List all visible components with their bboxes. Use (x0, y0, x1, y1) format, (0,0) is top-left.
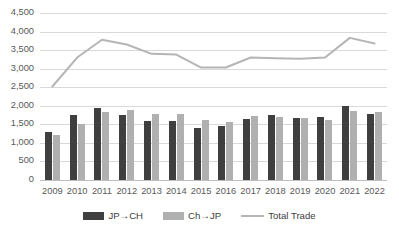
x-axis-baseline (40, 180, 387, 181)
x-axis-tick-label: 2010 (65, 183, 90, 199)
y-axis-tick-label: 500 (18, 157, 34, 166)
y-axis-tick-label: 1,000 (11, 138, 34, 147)
y-axis-tick-label: 0 (29, 175, 34, 184)
legend-item[interactable]: JP→CH (83, 211, 143, 221)
x-axis-tick-label: 2022 (362, 183, 387, 199)
x-axis-tick-label: 2018 (263, 183, 288, 199)
x-axis-tick-label: 2019 (288, 183, 313, 199)
x-axis-tick-label: 2016 (213, 183, 238, 199)
y-axis-tick-label: 2,000 (11, 101, 34, 110)
bar-dark-swatch (83, 212, 104, 220)
legend-item-label: JP→CH (108, 211, 143, 221)
x-axis-tick-label: 2020 (313, 183, 338, 199)
y-axis-tick-label: 3,500 (11, 45, 34, 54)
y-axis-tick-label: 1,500 (11, 120, 34, 129)
x-axis-tick-label: 2011 (90, 183, 115, 199)
x-axis-tick-label: 2013 (139, 183, 164, 199)
chart-legend: JP→CHCh→JPTotal Trade (0, 205, 399, 227)
legend-item-label: Ch→JP (188, 211, 221, 221)
x-axis-tick-label: 2015 (189, 183, 214, 199)
legend-item-label: Total Trade (268, 211, 315, 221)
plot-area (40, 13, 387, 180)
bar-light-swatch (163, 212, 184, 220)
total-trade-line (52, 38, 374, 87)
line-swatch (241, 215, 264, 217)
y-axis-tick-label: 4,000 (11, 27, 34, 36)
x-axis-tick-label: 2014 (164, 183, 189, 199)
y-axis-tick-label: 3,000 (11, 64, 34, 73)
x-axis-tick-label: 2012 (114, 183, 139, 199)
x-axis-tick-label: 2017 (238, 183, 263, 199)
y-axis-tick-label: 4,500 (11, 8, 34, 17)
y-axis-tick-label: 2,500 (11, 83, 34, 92)
legend-item[interactable]: Total Trade (241, 211, 315, 221)
trade-chart: 4,5004,0003,5003,0002,5002,0001,5001,000… (0, 0, 399, 237)
x-axis: 2009201020112012201320142015201620172018… (40, 183, 387, 199)
legend-item[interactable]: Ch→JP (163, 211, 221, 221)
total-trade-line-layer (40, 13, 387, 180)
x-axis-tick-label: 2021 (337, 183, 362, 199)
x-axis-tick-label: 2009 (40, 183, 65, 199)
y-axis: 4,5004,0003,5003,0002,5002,0001,5001,000… (0, 0, 37, 237)
